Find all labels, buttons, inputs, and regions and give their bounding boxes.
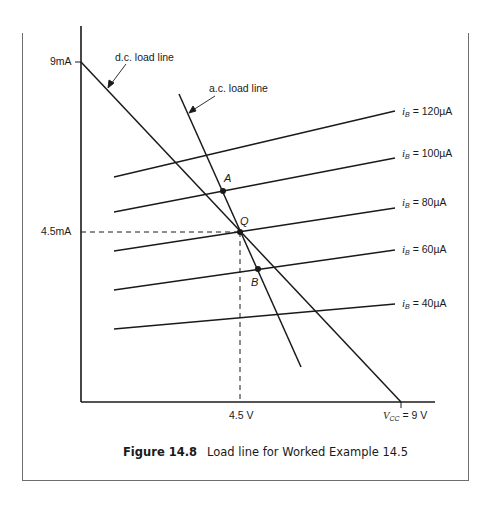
dc-label-leader <box>111 64 126 84</box>
figure-caption: Figure 14.8Load line for Worked Example … <box>123 445 408 459</box>
curve-label-ib-60: iB = 60µA <box>402 243 446 256</box>
dc-load-line-label: d.c. load line <box>115 51 174 63</box>
ac-load-line-label: a.c. load line <box>209 82 268 94</box>
point-q-marker <box>237 229 243 235</box>
point-q-label: Q <box>240 215 249 227</box>
curve-ib-120 <box>114 111 395 177</box>
y-tick-label-4-5ma: 4.5mA <box>41 225 71 237</box>
x-tick-label-vcc: VCC = 9 V <box>383 409 427 422</box>
figure-number: Figure 14.8 <box>123 445 197 459</box>
y-tick-label-9ma: 9mA <box>50 55 72 67</box>
curve-label-ib-80: iB = 80µA <box>402 196 446 209</box>
point-a-marker <box>220 188 226 194</box>
figure-caption-text: Load line for Worked Example 14.5 <box>207 445 408 459</box>
ac-label-arrowhead-icon <box>189 106 196 113</box>
point-a-label: A <box>224 172 231 184</box>
ac-label-leader <box>193 96 215 110</box>
x-tick-label-4-5v: 4.5 V <box>229 409 254 421</box>
curve-label-ib-120: iB = 120µA <box>402 105 452 118</box>
curve-ib-80 <box>114 208 395 251</box>
point-b-marker <box>255 266 261 272</box>
curve-label-ib-40: iB = 40µA <box>402 297 446 310</box>
point-b-label: B <box>251 276 258 288</box>
curve-label-ib-100: iB = 100µA <box>402 147 452 160</box>
curve-ib-40 <box>114 304 395 329</box>
curve-ib-100 <box>114 158 395 212</box>
characteristic-curves <box>114 111 395 329</box>
